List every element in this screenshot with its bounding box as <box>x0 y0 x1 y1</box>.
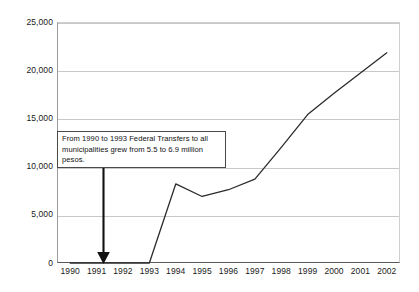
x-axis-tick-label: 1996 <box>215 266 241 277</box>
x-axis-tick-label: 1991 <box>83 266 109 277</box>
x-axis-tick-label: 1990 <box>57 266 83 277</box>
y-axis-tick-label: 0 <box>5 259 53 268</box>
y-axis-tick-label: 5,000 <box>5 210 53 219</box>
x-axis-tick-label: 2002 <box>374 266 400 277</box>
x-axis-tick-label: 1997 <box>242 266 268 277</box>
line-chart: 05,00010,00015,00020,00025,000 199019911… <box>0 0 419 292</box>
x-axis-tick-labels: 1990199119921993199419951996199719981999… <box>57 266 400 282</box>
x-axis-tick-label: 1992 <box>110 266 136 277</box>
x-axis-tick-label: 1993 <box>136 266 162 277</box>
x-axis-tick-label: 1999 <box>294 266 320 277</box>
annotation-callout-box: From 1990 to 1993 Federal Transfers to a… <box>57 131 226 168</box>
x-axis-tick-label: 1998 <box>268 266 294 277</box>
x-axis-tick-label: 1995 <box>189 266 215 277</box>
y-axis-tick-label: 20,000 <box>5 66 53 75</box>
y-axis-tick-label: 15,000 <box>5 114 53 123</box>
annotation-arrow-icon <box>92 168 116 265</box>
x-axis-tick-label: 2000 <box>321 266 347 277</box>
y-axis-tick-label: 25,000 <box>5 18 53 27</box>
y-axis-tick-label: 10,000 <box>5 162 53 171</box>
y-axis-tick-labels: 05,00010,00015,00020,00025,000 <box>0 22 53 263</box>
x-axis-tick-label: 1994 <box>163 266 189 277</box>
x-axis-tick-label: 2001 <box>347 266 373 277</box>
